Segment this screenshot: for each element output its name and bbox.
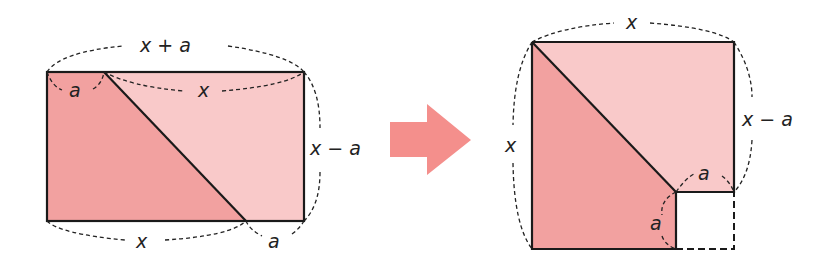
label-inner-top: a <box>698 162 710 184</box>
label-top: x + a <box>139 34 191 56</box>
label-left: x <box>504 134 517 156</box>
left-rectangle: x + a a x x − a x a <box>47 34 361 252</box>
label-top-right: x <box>197 79 210 101</box>
arrow-right-icon <box>390 104 471 175</box>
label-inner-left: a <box>650 212 662 234</box>
label-top: x <box>625 11 638 33</box>
label-right: x − a <box>309 137 361 159</box>
label-right: x − a <box>741 108 793 130</box>
label-bottom: x <box>135 230 148 252</box>
label-bottom-right: a <box>268 230 280 252</box>
missing-square-outline <box>676 192 734 249</box>
diagram-canvas: x + a a x x − a x a x x x − a a a <box>0 0 839 273</box>
label-top-left: a <box>69 79 81 101</box>
right-square: x x x − a a a <box>504 11 793 249</box>
